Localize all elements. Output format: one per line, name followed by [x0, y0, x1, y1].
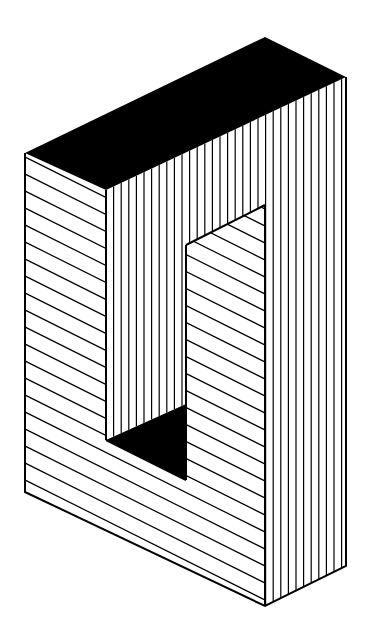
top-face-black — [25, 37, 346, 190]
impossible-block-drawing — [0, 0, 373, 644]
inner-shadow-triangle — [106, 404, 186, 480]
